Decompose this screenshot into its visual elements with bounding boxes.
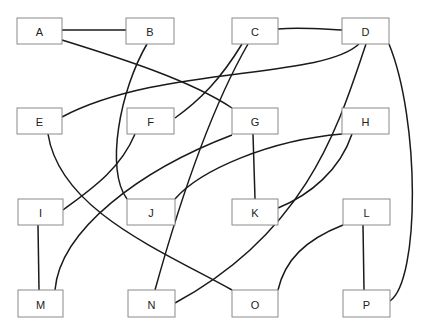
edge-l-o	[278, 225, 343, 290]
edge-d-p	[389, 44, 412, 301]
edges-layer	[38, 28, 412, 303]
node-h: H	[342, 108, 389, 134]
node-label: O	[251, 299, 260, 311]
node-label: B	[146, 26, 153, 38]
edge-g-k	[253, 134, 255, 199]
node-c: C	[232, 18, 278, 44]
node-label: M	[36, 299, 45, 311]
node-label: E	[36, 116, 43, 128]
node-label: H	[362, 116, 370, 128]
node-b: B	[126, 18, 174, 44]
node-k: K	[232, 199, 278, 225]
node-label: C	[251, 26, 259, 38]
node-d: D	[342, 18, 389, 44]
node-e: E	[17, 108, 62, 134]
graph-diagram: ABCDEFGHIJKLMNOP	[0, 0, 432, 331]
node-label: N	[148, 299, 156, 311]
node-label: I	[39, 207, 42, 219]
node-n: N	[128, 290, 175, 317]
edge-a-g	[62, 40, 232, 108]
node-label: J	[148, 207, 154, 219]
node-f: F	[127, 108, 174, 134]
node-g: G	[232, 108, 278, 134]
node-label: L	[363, 207, 369, 219]
node-label: A	[36, 26, 44, 38]
node-j: J	[127, 199, 175, 225]
node-p: P	[343, 290, 390, 317]
node-label: K	[251, 207, 259, 219]
edge-c-n	[155, 44, 248, 290]
node-label: G	[251, 116, 260, 128]
edge-d-n	[175, 44, 366, 303]
edge-f-i	[63, 134, 135, 210]
node-label: P	[363, 299, 370, 311]
node-label: D	[362, 26, 370, 38]
node-a: A	[17, 18, 62, 44]
node-o: O	[232, 290, 278, 317]
edge-l-p	[363, 225, 364, 290]
node-l: L	[343, 199, 390, 225]
edge-h-k	[278, 134, 352, 208]
node-label: F	[147, 116, 154, 128]
edge-i-m	[38, 225, 39, 290]
edge-c-d	[278, 28, 342, 30]
node-m: M	[18, 290, 63, 317]
node-i: I	[18, 199, 63, 225]
